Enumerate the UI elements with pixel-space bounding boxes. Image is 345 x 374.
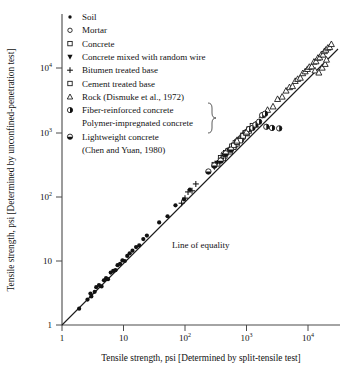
line-of-equality — [62, 49, 338, 325]
legend-item-label: Concrete mixed with random wire — [82, 52, 205, 62]
marker-filled-circle — [93, 290, 97, 294]
marker-half-filled-circle-vertical — [262, 111, 267, 116]
marker-filled-circle — [130, 249, 134, 253]
y-tick-exp: 3 — [49, 127, 52, 133]
x-tick-exp: 3 — [250, 332, 253, 338]
marker-half-filled-circle-vertical — [256, 119, 261, 124]
marker-half-filled-circle-vertical — [264, 124, 269, 129]
svg-text:102: 102 — [179, 332, 191, 343]
line-of-equality-label: Line of equality — [172, 240, 230, 250]
legend-item-label: Rock (Dismuke et al., 1972) — [82, 92, 184, 102]
marker-half-filled-circle-vertical — [269, 125, 274, 130]
legend-item-label: Cement treated base — [82, 79, 155, 89]
y-axis-ticks — [56, 68, 62, 325]
chart-figure: 1 10 102 103 104 1 10 102 103 104 Tensil… — [0, 0, 345, 374]
scatter-plot-svg: 1 10 102 103 104 1 10 102 103 104 Tensil… — [0, 0, 345, 374]
marker-half-filled-circle-horizontal — [218, 158, 223, 163]
marker-half-filled-circle-horizontal — [223, 151, 228, 156]
legend-item-label: Fiber-reinforced concrete — [82, 105, 174, 115]
series-polymer-impregnated-concrete — [259, 111, 267, 118]
marker-open-triangle-up — [270, 103, 276, 109]
marker-half-filled-circle-horizontal — [206, 169, 211, 174]
svg-text:103: 103 — [40, 127, 52, 138]
marker-plus — [193, 181, 199, 187]
y-tick-label: 1 — [48, 320, 53, 330]
x-axis-ticks — [62, 325, 308, 331]
marker-open-square — [68, 41, 72, 45]
legend-group-brace — [208, 103, 216, 133]
chart-legend: SoilMortarConcreteConcrete mixed with ra… — [67, 12, 205, 155]
y-axis-title: Tensile strength, psi [Determined by unc… — [6, 49, 16, 292]
marker-open-triangle-up — [279, 94, 285, 100]
svg-text:10: 10 — [119, 333, 129, 343]
x-tick-labels: 1 10 102 103 104 — [60, 332, 314, 343]
svg-text:104: 104 — [40, 62, 52, 73]
svg-text:1: 1 — [60, 333, 65, 343]
marker-filled-circle — [137, 243, 141, 247]
marker-open-triangle-up — [67, 94, 72, 99]
x-tick-exp: 4 — [311, 332, 314, 338]
marker-half-filled-circle-horizontal — [67, 134, 72, 139]
marker-filled-circle — [118, 262, 122, 266]
series-bitumen-treated-base — [179, 181, 199, 206]
marker-filled-triangle-down — [67, 55, 72, 60]
marker-half-filled-circle-vertical — [276, 126, 281, 131]
marker-filled-circle — [145, 233, 149, 237]
legend-item-label: Bitumen treated base — [82, 65, 158, 75]
series-fiber-reinforced-concrete — [246, 119, 282, 132]
legend-item-label: Mortar — [82, 25, 107, 35]
svg-text:102: 102 — [40, 191, 52, 202]
x-axis-title: Tensile strength, psi [Determined by spl… — [101, 353, 300, 363]
svg-text:103: 103 — [241, 332, 253, 343]
svg-text:10: 10 — [43, 256, 53, 266]
legend-item-label: (Chen and Yuan, 1980) — [82, 145, 165, 155]
marker-filled-circle — [89, 294, 93, 298]
y-tick-labels: 1 10 102 103 104 — [40, 62, 53, 330]
marker-plus — [67, 67, 73, 73]
legend-item-label: Polymer-impregnated concrete — [82, 118, 193, 128]
svg-text:104: 104 — [302, 332, 314, 343]
marker-filled-circle — [106, 277, 110, 281]
legend-item-label: Soil — [82, 12, 97, 22]
x-tick-label: 10 — [119, 333, 129, 343]
y-tick-exp: 2 — [49, 191, 52, 197]
x-tick-exp: 2 — [188, 332, 191, 338]
series-lightweight-concrete-chen-and-yuan-1980 — [206, 147, 234, 174]
marker-filled-circle — [113, 268, 117, 272]
marker-filled-circle — [173, 203, 177, 207]
y-tick-label: 10 — [43, 256, 53, 266]
svg-text:1: 1 — [48, 320, 53, 330]
marker-half-filled-circle-vertical — [67, 108, 72, 113]
marker-filled-circle — [157, 220, 161, 224]
x-tick-label: 1 — [60, 333, 65, 343]
marker-half-filled-circle-horizontal — [228, 147, 233, 152]
marker-open-square — [68, 81, 72, 85]
marker-filled-circle — [123, 259, 127, 263]
marker-open-circle — [68, 28, 72, 32]
marker-filled-circle — [141, 237, 145, 241]
legend-item-label: Concrete — [82, 39, 114, 49]
y-tick-exp: 4 — [49, 62, 52, 68]
marker-filled-circle — [165, 214, 169, 218]
marker-half-filled-circle-horizontal — [212, 163, 217, 168]
marker-filled-circle — [77, 307, 81, 311]
legend-item-label: Lightweight concrete — [82, 132, 159, 142]
marker-filled-circle — [99, 284, 103, 288]
marker-filled-circle — [68, 15, 71, 18]
marker-filled-circle — [85, 297, 89, 301]
